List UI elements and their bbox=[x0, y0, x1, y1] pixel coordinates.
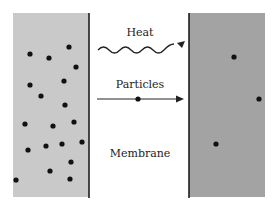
particles-label: Particles bbox=[116, 78, 165, 91]
particle bbox=[231, 54, 236, 59]
particle bbox=[27, 82, 32, 87]
particle bbox=[213, 141, 218, 146]
particle bbox=[79, 139, 84, 144]
particle bbox=[73, 64, 78, 69]
particle bbox=[22, 121, 27, 126]
particle bbox=[59, 141, 64, 146]
particle bbox=[46, 55, 51, 60]
particle bbox=[61, 78, 66, 83]
moving-particle bbox=[135, 96, 140, 101]
particle bbox=[13, 177, 18, 182]
particle bbox=[67, 176, 72, 181]
heat-arrowhead-icon bbox=[177, 41, 185, 48]
particles-arrowhead-icon bbox=[176, 96, 184, 103]
particle bbox=[25, 147, 30, 152]
particle bbox=[256, 96, 261, 101]
particle bbox=[50, 123, 55, 128]
particle bbox=[66, 44, 71, 49]
particle bbox=[27, 51, 32, 56]
particle bbox=[68, 159, 73, 164]
particle bbox=[38, 93, 43, 98]
particle bbox=[47, 168, 52, 173]
particle bbox=[62, 102, 67, 107]
particle bbox=[71, 119, 76, 124]
particle bbox=[43, 143, 48, 148]
heat-label: Heat bbox=[126, 26, 154, 39]
diffusion-diagram: Heat Particles Membrane bbox=[0, 0, 275, 209]
heat-wave-arrow bbox=[98, 44, 174, 53]
right-region bbox=[189, 13, 265, 197]
membrane-label: Membrane bbox=[110, 147, 171, 160]
